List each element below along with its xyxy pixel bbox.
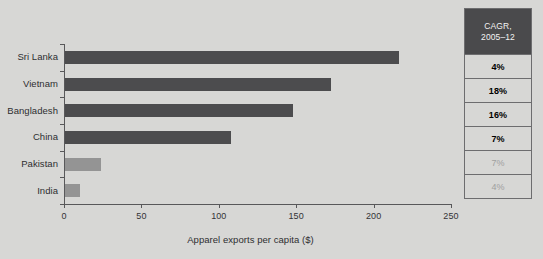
cagr-cell: 4% (465, 174, 531, 198)
cagr-cell: 4% (465, 54, 531, 78)
y-axis-tick (60, 151, 64, 152)
cagr-cell: 18% (465, 78, 531, 102)
x-axis-tick-label: 250 (431, 211, 471, 221)
plot-area: 050100150200250 (64, 44, 451, 204)
x-axis-tick (374, 204, 375, 208)
cagr-cell: 16% (465, 102, 531, 126)
x-axis-title: Apparel exports per capita ($) (0, 234, 501, 245)
cagr-header-line-2: 2005–12 (481, 32, 515, 43)
category-label: India (37, 185, 58, 196)
cagr-table-header: CAGR, 2005–12 (465, 9, 531, 54)
x-axis-tick-label: 100 (199, 211, 239, 221)
cagr-cell: 7% (465, 150, 531, 174)
bar (65, 131, 231, 144)
category-label: Vietnam (23, 78, 58, 89)
y-axis-tick (60, 177, 64, 178)
x-axis-tick-label: 150 (276, 211, 316, 221)
bar (65, 78, 331, 91)
y-axis-line (64, 44, 65, 204)
cagr-header-line-1: CAGR, (484, 21, 511, 32)
cagr-cell: 7% (465, 126, 531, 150)
category-label: Bangladesh (7, 105, 58, 116)
category-label: Pakistan (21, 158, 58, 169)
bar (65, 104, 293, 117)
y-axis-tick (60, 44, 64, 45)
category-label: China (33, 131, 58, 142)
bar (65, 158, 101, 171)
bar (65, 51, 399, 64)
y-axis-tick (60, 97, 64, 98)
y-axis-tick (60, 71, 64, 72)
x-axis-tick (451, 204, 452, 208)
chart-figure: Sri LankaVietnamBangladeshChinaPakistanI… (0, 0, 543, 259)
x-axis-tick (141, 204, 142, 208)
x-axis-tick (296, 204, 297, 208)
x-axis-tick-label: 0 (44, 211, 84, 221)
x-axis-tick (64, 204, 65, 208)
x-axis-tick-label: 200 (354, 211, 394, 221)
bar (65, 184, 80, 197)
cagr-table: CAGR, 2005–12 4%18%16%7%7%4% (464, 8, 532, 199)
x-axis-tick-label: 50 (121, 211, 161, 221)
category-axis-labels: Sri LankaVietnamBangladeshChinaPakistanI… (0, 44, 58, 204)
x-axis-tick (219, 204, 220, 208)
category-label: Sri Lanka (17, 51, 58, 62)
y-axis-tick (60, 124, 64, 125)
x-axis-line (64, 204, 451, 205)
